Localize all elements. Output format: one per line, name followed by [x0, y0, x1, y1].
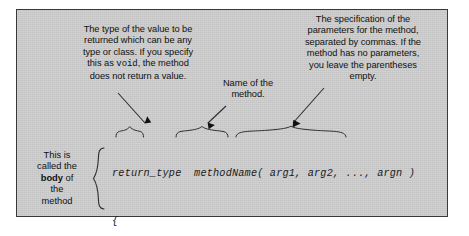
- callout-body-line4: the: [51, 184, 64, 194]
- callout-params-line2: parameters for the method,: [308, 25, 419, 35]
- code-line-open-brace: {: [112, 214, 415, 230]
- callout-return-line1: The type of the value to be: [84, 24, 193, 34]
- callout-body-line2: called the: [37, 161, 77, 171]
- callout-params-line5: you leave the parentheses: [309, 60, 417, 70]
- callout-method-body: This is called the body of the method: [24, 150, 90, 207]
- callout-params-line3: separated by commas. If the: [305, 37, 421, 47]
- callout-name-line1: Name of the: [223, 78, 273, 88]
- callout-return-line3: type or class. If you specify: [83, 47, 193, 57]
- callout-body-line1: This is: [44, 150, 71, 160]
- callout-body-line5: method: [41, 196, 72, 206]
- callout-body-keyword: body: [41, 173, 63, 183]
- callout-name-line2: method.: [231, 89, 264, 99]
- code-block: return_type methodName( arg1, arg2, ...,…: [112, 134, 415, 236]
- code-line-signature: return_type methodName( arg1, arg2, ...,…: [112, 166, 415, 182]
- callout-return-line2: returned which can be any: [84, 35, 192, 45]
- callout-return-type: The type of the value to be returned whi…: [50, 24, 226, 82]
- method-syntax-figure: The type of the value to be returned whi…: [0, 0, 469, 236]
- callout-params-line6: empty.: [350, 71, 377, 81]
- callout-parameters: The specification of the parameters for …: [284, 14, 442, 82]
- callout-body-line3-post: of: [63, 173, 73, 183]
- callout-return-line5: does not return a value.: [90, 71, 186, 81]
- keyword-void: void: [116, 59, 137, 69]
- callout-return-line4-pre: this as: [87, 58, 116, 68]
- callout-params-line4: method has no parameters,: [307, 48, 419, 58]
- callout-return-line4-post: , the method: [138, 58, 189, 68]
- callout-params-line1: The specification of the: [316, 14, 410, 24]
